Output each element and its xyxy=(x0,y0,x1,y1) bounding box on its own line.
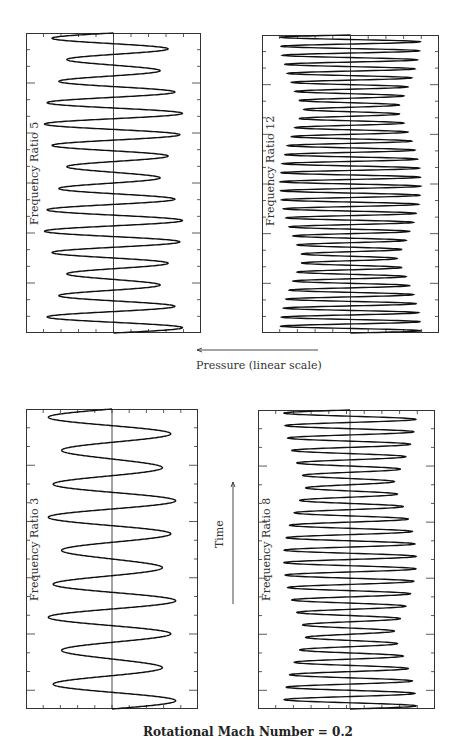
panel-label: Frequency Ratio 3 xyxy=(28,498,41,601)
panel-frequency-ratio-5: Frequency Ratio 5 xyxy=(26,33,201,333)
waveform-plot xyxy=(26,33,201,333)
panel-frequency-ratio-8: Frequency Ratio 8 xyxy=(258,410,435,709)
panel-label: Frequency Ratio 8 xyxy=(260,498,273,601)
figure-title: Rotational Mach Number = 0.2 xyxy=(143,725,353,739)
panel-frequency-ratio-3: Frequency Ratio 3 xyxy=(26,409,198,709)
panel-frequency-ratio-12: Frequency Ratio 12 xyxy=(262,35,439,333)
pressure-axis-label: Pressure (linear scale) xyxy=(196,359,322,372)
pressure-arrow-icon xyxy=(195,346,320,354)
time-arrow-icon xyxy=(229,480,237,606)
waveform-plot xyxy=(262,35,439,333)
panel-label: Frequency Ratio 12 xyxy=(264,116,277,226)
panel-label: Frequency Ratio 5 xyxy=(28,122,41,225)
time-axis-label: Time xyxy=(213,520,226,548)
waveform-plot xyxy=(258,410,435,709)
waveform-plot xyxy=(26,409,198,709)
